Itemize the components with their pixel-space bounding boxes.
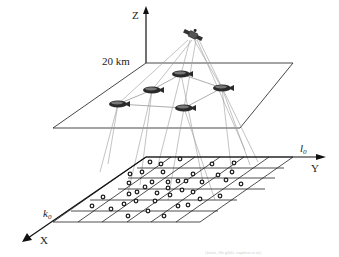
ground-users <box>90 157 243 218</box>
satellite-icon <box>183 25 205 42</box>
airship-icon <box>175 104 196 111</box>
x-axis <box>22 157 146 242</box>
y-axis <box>146 154 326 160</box>
k0-label: k0 <box>43 208 51 221</box>
altitude-label: 20 km <box>102 56 130 67</box>
ground-grid <box>53 157 293 222</box>
l0-label: l0 <box>300 143 307 156</box>
z-axis <box>143 6 149 63</box>
l0-sub: 0 <box>303 148 307 156</box>
y-axis-label: Y <box>311 163 319 174</box>
figure-caption: (faint, illegible caption text) <box>205 250 325 256</box>
airship-icon <box>213 84 234 91</box>
k0-sub: 0 <box>48 213 52 221</box>
satellite-links <box>118 40 258 162</box>
z-axis-label: Z <box>132 10 139 21</box>
inter-airship-links <box>118 74 222 108</box>
x-axis-label: X <box>40 235 48 246</box>
airship-icon <box>109 100 130 107</box>
airship-icon <box>143 86 164 93</box>
